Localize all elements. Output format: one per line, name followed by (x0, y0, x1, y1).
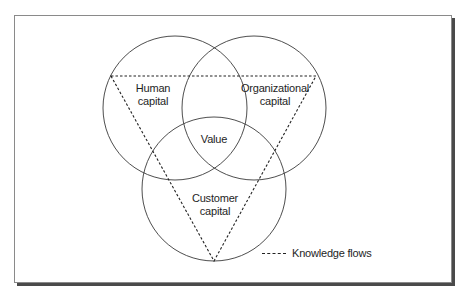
legend-label: Knowledge flows (292, 247, 372, 259)
organizational-capital-circle (182, 36, 326, 180)
organizational-capital-label: Organizational capital (241, 82, 309, 108)
venn-diagram (0, 0, 467, 297)
human-capital-label-line2: capital (136, 95, 170, 108)
customer-capital-label-line2: capital (192, 205, 238, 218)
customer-capital-label: Customer capital (192, 192, 238, 218)
human-capital-label-line1: Human (136, 82, 170, 95)
human-capital-label: Human capital (136, 82, 170, 108)
organizational-capital-label-line1: Organizational (241, 82, 309, 95)
customer-capital-label-line1: Customer (192, 192, 238, 205)
organizational-capital-label-line2: capital (241, 95, 309, 108)
legend: Knowledge flows (262, 246, 372, 260)
dashed-line-icon (262, 253, 286, 254)
human-capital-circle (103, 36, 247, 180)
value-label: Value (201, 133, 227, 146)
